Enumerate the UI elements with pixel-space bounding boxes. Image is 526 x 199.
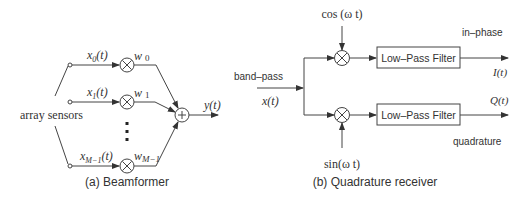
weight-label-m: wM−1 (134, 149, 160, 164)
input-label-0: x0(t) (86, 48, 108, 64)
sensor-connector-bottom (55, 126, 68, 164)
in-phase-label: in–phase (462, 27, 503, 38)
input-label-m: xM−1(t) (79, 149, 113, 165)
quadrature-label: quadrature (453, 136, 502, 147)
ellipsis-dots-icon (126, 122, 129, 141)
diagram-canvas: array sensors x0(t) x1(t) xM−1(t) w0 w1 … (0, 0, 526, 199)
sensor-connector-top (55, 66, 68, 96)
input-label-1: x1(t) (86, 85, 108, 101)
weight-label-0: w0 (134, 49, 150, 63)
weight-label-1: w1 (134, 86, 150, 100)
sensor-node-0 (68, 63, 72, 67)
sin-label: sin(ω t) (324, 157, 360, 171)
lpf-bottom-label: Low–Pass Filter (381, 109, 456, 121)
input-x-label: x(t) (261, 94, 279, 108)
output-q-label: Q(t) (490, 94, 509, 107)
band-pass-label: band–pass (234, 71, 283, 82)
sensor-node-1 (68, 100, 72, 104)
weight-path-1 (134, 102, 175, 112)
cos-label: cos (ω t) (321, 7, 362, 21)
output-label: y(t) (203, 98, 221, 112)
output-i-label: I(t) (492, 66, 507, 79)
lpf-top-label: Low–Pass Filter (381, 52, 456, 64)
beamformer-caption: (a) Beamformer (85, 175, 169, 189)
array-sensors-label: array sensors (20, 108, 83, 122)
quadrature-diagram (257, 26, 508, 148)
sensor-node-m (68, 164, 72, 168)
quadrature-caption: (b) Quadrature receiver (313, 175, 438, 189)
